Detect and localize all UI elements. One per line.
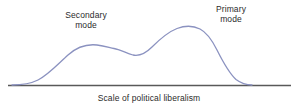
annotation-secondary-mode: Secondary mode — [52, 10, 120, 30]
chart-figure: Secondary mode Primary mode Scale of pol… — [0, 0, 298, 109]
annotation-secondary-mode-line1: Secondary — [52, 10, 120, 20]
annotation-secondary-mode-line2: mode — [52, 20, 120, 30]
annotation-primary-mode-line1: Primary — [202, 4, 260, 14]
annotation-primary-mode-line2: mode — [202, 14, 260, 24]
annotation-primary-mode: Primary mode — [202, 4, 260, 24]
x-axis-label: Scale of political liberalism — [0, 93, 298, 103]
density-curve — [12, 26, 252, 85]
